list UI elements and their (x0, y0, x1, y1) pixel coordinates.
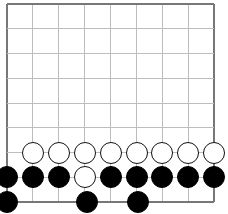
grid-line-horizontal (7, 53, 214, 54)
grid-line-horizontal (7, 28, 214, 29)
white-stone[interactable] (22, 142, 44, 164)
board-bottom-edge (7, 201, 214, 203)
black-stone[interactable] (0, 166, 18, 188)
black-stone[interactable] (126, 166, 148, 188)
white-stone[interactable] (100, 142, 122, 164)
white-stone[interactable] (203, 142, 225, 164)
black-stone[interactable] (0, 191, 18, 213)
white-stone[interactable] (48, 142, 70, 164)
black-stone[interactable] (100, 166, 122, 188)
black-stone[interactable] (127, 191, 149, 213)
black-stone[interactable] (151, 166, 173, 188)
board-top-edge (7, 3, 214, 5)
black-stone[interactable] (22, 166, 44, 188)
white-stone[interactable] (151, 142, 173, 164)
go-board[interactable] (0, 0, 228, 214)
grid-line-horizontal (7, 103, 214, 104)
white-stone[interactable] (74, 142, 96, 164)
white-stone[interactable] (74, 166, 96, 188)
black-stone[interactable] (48, 166, 70, 188)
black-stone[interactable] (76, 191, 98, 213)
black-stone[interactable] (177, 166, 199, 188)
white-stone[interactable] (177, 142, 199, 164)
black-stone[interactable] (203, 166, 225, 188)
grid-line-horizontal (7, 127, 214, 128)
white-stone[interactable] (126, 142, 148, 164)
grid-line-horizontal (7, 78, 214, 79)
